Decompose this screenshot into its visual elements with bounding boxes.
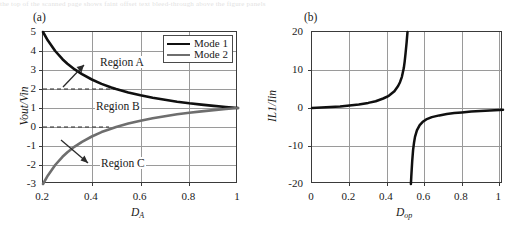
x-axis-title-b-sub: op: [404, 211, 412, 220]
y-tick-label: -3: [19, 177, 36, 189]
legend-swatch-mode-1: [167, 43, 190, 45]
y-axis-title-b-num-sub: L1: [266, 106, 278, 118]
y-tick-label: 4: [24, 44, 36, 56]
series-mode-2: [43, 108, 238, 184]
x-tick-label: 0.8: [181, 190, 195, 202]
y-tick-label: 10: [282, 63, 303, 75]
y-tick-label: -2: [19, 158, 36, 170]
y-axis-title-a: Vout/Vin: [18, 62, 30, 150]
y-axis-title-b-num: I: [266, 118, 278, 122]
x-tick-label: 0.8: [454, 190, 468, 202]
y-tick-label: 0: [282, 101, 303, 113]
annotation-region-a: Region A: [99, 56, 145, 68]
annotation-region-b: Region B: [95, 100, 141, 112]
panel-label-b: (b): [304, 11, 317, 23]
y-axis-title-b: IL1/Iin: [266, 62, 278, 150]
plot-area-b: [311, 31, 502, 183]
x-axis-title-a-sub: A: [139, 211, 144, 220]
legend-item-mode-2[interactable]: Mode 2: [167, 49, 228, 60]
plot-area-a: Region A Region B Region C Mode 1 Mode 2: [42, 31, 237, 183]
legend-panel-a[interactable]: Mode 1 Mode 2: [163, 35, 233, 63]
annotation-arrowhead-region-c: [81, 156, 89, 164]
chart-panel-b: (b): [260, 0, 520, 228]
series-il1-iin-left-branch: [312, 32, 408, 108]
x-tick-label: 0: [308, 190, 314, 202]
x-tick-label: 1: [234, 190, 240, 202]
y-axis-title-a-slash: /: [18, 102, 30, 105]
curves-panel-b: [312, 32, 503, 184]
y-tick-label: -10: [276, 139, 303, 151]
y-axis-title-a-num-sub: out: [18, 105, 30, 120]
series-il1-iin-right-branch: [411, 110, 503, 184]
figure-container: the top of the scanned page shows faint …: [0, 0, 520, 228]
x-tick-label: 0.4: [379, 190, 393, 202]
chart-panel-a: (a): [0, 0, 260, 228]
x-axis-title-a: DA: [131, 206, 144, 220]
x-tick-label: 0.6: [133, 190, 147, 202]
y-tick-label: -20: [276, 177, 303, 189]
y-axis-title-a-den-sub: in: [18, 87, 30, 96]
y-tick-label: 20: [282, 25, 303, 37]
y-axis-title-b-den-sub: in: [266, 90, 278, 99]
y-axis-title-a-num: V: [18, 120, 30, 126]
x-axis-title-b: Dop: [396, 206, 412, 220]
legend-label-mode-2: Mode 2: [194, 49, 228, 60]
x-tick-label: 0.4: [84, 190, 98, 202]
panel-label-a: (a): [33, 11, 46, 23]
annotation-region-c: Region C: [100, 157, 146, 169]
x-tick-label: 0.2: [35, 190, 49, 202]
y-axis-title-a-den: V: [18, 96, 30, 102]
y-axis-title-b-den: I: [266, 99, 278, 103]
legend-swatch-mode-2: [167, 54, 190, 56]
x-tick-label: 1: [496, 190, 502, 202]
x-tick-label: 0.6: [416, 190, 430, 202]
y-axis-title-b-slash: /: [266, 103, 278, 106]
x-tick-label: 0.2: [342, 190, 356, 202]
y-tick-label: 5: [24, 25, 36, 37]
